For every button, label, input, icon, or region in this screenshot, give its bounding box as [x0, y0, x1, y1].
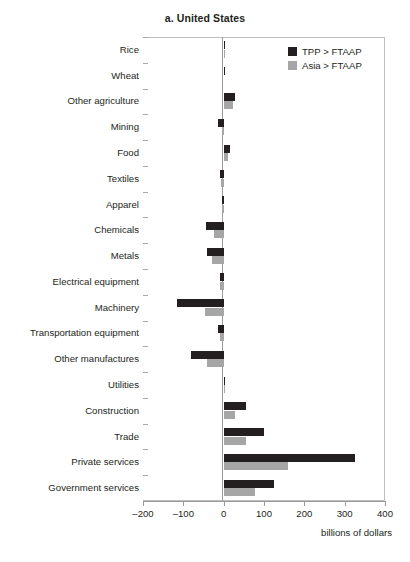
chart-title: a. United States [0, 12, 410, 24]
bar-tpp [206, 222, 224, 230]
bar-asia [224, 411, 235, 419]
x-axis-title: billions of dollars [0, 527, 392, 538]
legend-swatch-icon-asia [288, 61, 297, 70]
bars-layer [0, 37, 410, 501]
bar-asia [224, 488, 255, 496]
chart-legend: TPP > FTAAP Asia > FTAAP [288, 45, 362, 73]
bar-tpp [177, 299, 223, 307]
bar-tpp [224, 454, 355, 462]
legend-item-asia: Asia > FTAAP [288, 59, 362, 71]
bar-asia [224, 462, 289, 470]
bar-asia [224, 50, 225, 58]
bar-tpp [224, 480, 274, 488]
bar-asia [212, 256, 223, 264]
legend-label-tpp: TPP > FTAAP [302, 46, 362, 57]
legend-swatch-icon-tpp [288, 47, 297, 56]
bar-asia [220, 333, 224, 341]
bar-asia [220, 282, 223, 290]
bar-asia [224, 153, 228, 161]
bar-tpp [224, 428, 264, 436]
bar-asia [224, 437, 246, 445]
bar-tpp [207, 248, 224, 256]
bar-tpp [224, 67, 225, 75]
bar-asia [224, 385, 225, 393]
bar-tpp [220, 170, 223, 178]
bar-tpp [220, 273, 224, 281]
x-axis-tick-label: 400 [365, 508, 405, 519]
bar-tpp [218, 119, 223, 127]
x-axis-tick-label: –100 [163, 508, 203, 519]
x-axis-tick-label: –200 [123, 508, 163, 519]
bar-asia [207, 359, 224, 367]
x-axis-tick-label: 200 [284, 508, 324, 519]
x-axis-tick [304, 501, 305, 506]
x-axis-tick-label: 300 [325, 508, 365, 519]
bar-tpp [222, 196, 224, 204]
bar-asia [214, 230, 224, 238]
bar-tpp [224, 93, 235, 101]
x-axis-tick [183, 501, 184, 506]
bar-tpp [191, 351, 223, 359]
bar-tpp [224, 377, 225, 385]
bar-asia [222, 127, 224, 135]
legend-label-asia: Asia > FTAAP [302, 60, 362, 71]
x-axis-tick [264, 501, 265, 506]
x-axis-tick [385, 501, 386, 506]
x-axis-tick [345, 501, 346, 506]
bar-asia [222, 205, 224, 213]
bar-tpp [224, 402, 246, 410]
x-axis-tick-label: 0 [204, 508, 244, 519]
x-axis-tick [143, 501, 144, 506]
bar-tpp [218, 325, 224, 333]
bar-asia [205, 308, 224, 316]
legend-item-tpp: TPP > FTAAP [288, 45, 362, 57]
bar-asia [221, 179, 223, 187]
x-axis-tick [224, 501, 225, 506]
bar-tpp [224, 145, 230, 153]
x-axis-tick-label: 100 [244, 508, 284, 519]
bar-asia [224, 101, 233, 109]
bar-tpp [224, 41, 225, 49]
chart-figure: a. United States RiceWheatOther agricult… [0, 0, 410, 562]
